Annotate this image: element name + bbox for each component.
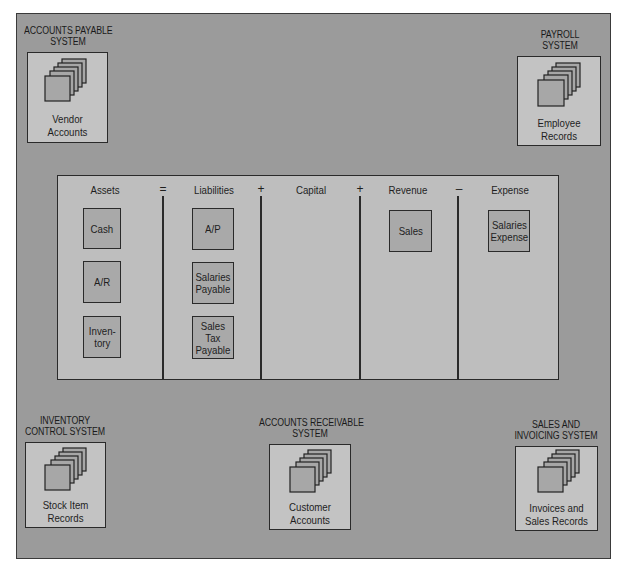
stacked-records-icon <box>518 57 602 117</box>
title-line: SYSTEM <box>259 428 361 439</box>
account-label: Inven- tory <box>89 325 116 349</box>
system-title-sales-invoicing: SALES AND INVOICING SYSTEM <box>514 419 598 441</box>
minus-operator: – <box>453 183 465 196</box>
file-label-line: Customer <box>275 501 345 514</box>
column-heading-expense: Expense <box>486 184 534 197</box>
account-label: A/R <box>94 276 110 288</box>
accounting-equation-panel: Assets = Liabilities + Capital + Revenue… <box>57 175 559 380</box>
system-title-payroll: PAYROLL SYSTEM <box>534 29 587 51</box>
title-line: SALES AND <box>514 419 598 430</box>
file-label-line: Accounts <box>33 126 103 139</box>
column-divider <box>162 196 164 379</box>
column-divider <box>359 196 361 379</box>
title-line: PAYROLL <box>534 29 587 40</box>
account-label: Cash <box>91 223 114 235</box>
title-line: ACCOUNTS RECEIVABLE <box>259 417 361 428</box>
equals-operator: = <box>157 183 169 196</box>
column-divider <box>457 196 459 379</box>
title-line: INVOICING SYSTEM <box>514 430 598 441</box>
plus-operator: + <box>354 183 366 196</box>
file-label: Employee Records <box>523 117 595 143</box>
system-box-customer-accounts: Customer Accounts <box>269 444 351 530</box>
column-heading-capital: Capital <box>289 184 333 197</box>
system-title-accounts-receivable: ACCOUNTS RECEIVABLE SYSTEM <box>259 417 361 439</box>
column-divider <box>260 196 262 379</box>
account-cash: Cash <box>83 208 121 249</box>
file-label-line: Employee <box>523 117 595 130</box>
title-line: SYSTEM <box>534 40 587 51</box>
file-label: Stock Item Records <box>31 499 101 525</box>
system-box-vendor-accounts: Vendor Accounts <box>27 52 108 143</box>
file-label: Vendor Accounts <box>33 113 103 139</box>
file-label-line: Records <box>31 512 101 525</box>
file-label-line: Sales Records <box>521 515 592 528</box>
plus-operator: + <box>255 183 267 196</box>
system-box-invoices-sales-records: Invoices and Sales Records <box>515 446 598 531</box>
column-heading-liabilities: Liabilities <box>187 184 242 197</box>
account-label: A/P <box>205 223 221 235</box>
file-label-line: Stock Item <box>31 499 101 512</box>
file-label-line: Vendor <box>33 113 103 126</box>
system-box-employee-records: Employee Records <box>517 56 601 146</box>
file-label-line: Records <box>523 130 595 143</box>
stacked-records-icon <box>516 447 599 507</box>
stacked-records-icon <box>270 445 352 505</box>
stacked-records-icon <box>26 443 107 503</box>
system-title-accounts-payable: ACCOUNTS PAYABLE SYSTEM <box>24 25 112 47</box>
title-line: SYSTEM <box>24 36 112 47</box>
file-label-line: Accounts <box>275 514 345 527</box>
account-label: Sales Tax Payable <box>195 320 230 356</box>
account-sales: Sales <box>389 210 432 252</box>
stacked-records-icon <box>28 53 109 113</box>
title-line: ACCOUNTS PAYABLE <box>24 25 112 36</box>
system-box-stock-item-records: Stock Item Records <box>25 442 106 528</box>
account-accounts-payable: A/P <box>192 208 234 250</box>
account-accounts-receivable: A/R <box>83 261 121 303</box>
title-line: INVENTORY <box>24 415 107 426</box>
account-inventory: Inven- tory <box>83 316 121 358</box>
account-salaries-expense: Salaries Expense <box>488 210 530 252</box>
column-heading-revenue: Revenue <box>383 184 432 197</box>
account-sales-tax-payable: Sales Tax Payable <box>192 316 234 359</box>
account-salaries-payable: Salaries Payable <box>192 262 234 304</box>
column-heading-assets: Assets <box>83 184 127 197</box>
file-label-line: Invoices and <box>521 502 592 515</box>
file-label: Invoices and Sales Records <box>521 502 592 528</box>
file-label: Customer Accounts <box>275 501 345 527</box>
account-label: Salaries Expense <box>490 219 528 243</box>
account-label: Sales <box>398 225 422 237</box>
title-line: CONTROL SYSTEM <box>24 426 107 437</box>
account-label: Salaries Payable <box>195 271 230 295</box>
system-title-inventory-control: INVENTORY CONTROL SYSTEM <box>24 415 107 437</box>
